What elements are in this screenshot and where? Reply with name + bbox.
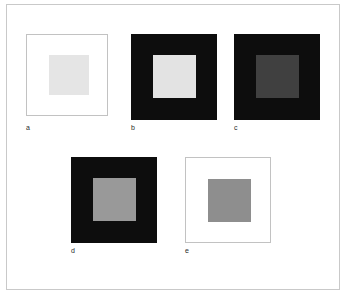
- panel-e: [185, 157, 271, 243]
- figure-root: a b c d e: [0, 0, 347, 300]
- panel-d: [71, 157, 157, 243]
- panel-b: [131, 34, 217, 120]
- panel-b-surround: [131, 34, 217, 120]
- panel-c-surround: [234, 34, 320, 120]
- panel-e-surround: [185, 157, 271, 243]
- panel-d-caption: d: [71, 247, 75, 255]
- panel-a-target-square: [49, 55, 89, 95]
- panel-b-caption: b: [131, 124, 135, 132]
- panel-c-caption: c: [234, 124, 238, 132]
- panel-e-target-square: [208, 179, 251, 222]
- panel-e-caption: e: [185, 247, 189, 255]
- panel-grid: a b c d e: [0, 0, 347, 300]
- panel-c-target-square: [256, 55, 299, 98]
- panel-a-surround: [26, 34, 108, 116]
- panel-b-target-square: [153, 55, 196, 98]
- panel-a: [26, 34, 108, 116]
- panel-d-target-square: [93, 178, 136, 221]
- panel-d-surround: [71, 157, 157, 243]
- panel-c: [234, 34, 320, 120]
- panel-a-caption: a: [26, 124, 30, 132]
